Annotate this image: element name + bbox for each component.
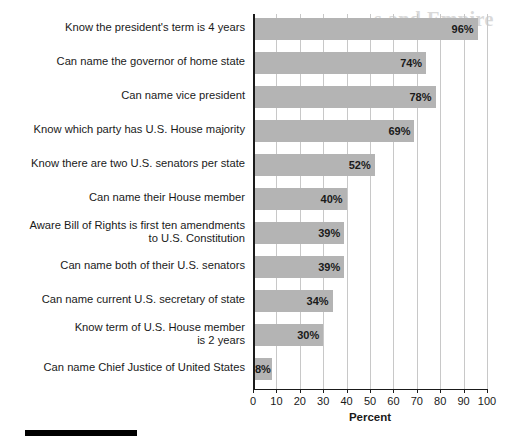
tick-mark-100 bbox=[487, 389, 488, 393]
horizontal-bar-chart: Know the president's term is 4 yearsCan … bbox=[0, 0, 508, 444]
bar-row: 74% bbox=[253, 52, 487, 74]
value-axis-zero-line bbox=[253, 14, 255, 389]
bar-value-label: 69% bbox=[384, 120, 410, 142]
category-label: Know the president's term is 4 years bbox=[0, 21, 245, 35]
tick-mark-50 bbox=[370, 389, 371, 393]
bar-value-label: 34% bbox=[303, 290, 329, 312]
tick-mark-30 bbox=[323, 389, 324, 393]
tick-mark-20 bbox=[300, 389, 301, 393]
bar-value-label: 39% bbox=[314, 256, 340, 278]
x-axis-title: Percent bbox=[253, 411, 487, 423]
category-axis-labels: Know the president's term is 4 yearsCan … bbox=[0, 14, 249, 389]
category-label: Can name the governor of home state bbox=[0, 55, 245, 69]
bar-row: 52% bbox=[253, 154, 487, 176]
bar-row: 39% bbox=[253, 256, 487, 278]
bar-value-label: 78% bbox=[406, 86, 432, 108]
gridline-100 bbox=[487, 14, 488, 389]
bar-row: 78% bbox=[253, 86, 487, 108]
tick-label-70: 70 bbox=[404, 395, 430, 407]
tick-label-20: 20 bbox=[287, 395, 313, 407]
category-label: Can name their House member bbox=[0, 191, 245, 205]
category-label: Aware Bill of Rights is first ten amendm… bbox=[0, 219, 245, 246]
bar-row: 30% bbox=[253, 324, 487, 346]
bar-row: 8% bbox=[253, 358, 487, 380]
category-label: Know there are two U.S. senators per sta… bbox=[0, 157, 245, 171]
bar-value-label: 74% bbox=[396, 52, 422, 74]
bar-row: 39% bbox=[253, 222, 487, 244]
tick-mark-60 bbox=[393, 389, 394, 393]
category-label: Can name both of their U.S. senators bbox=[0, 259, 245, 273]
tick-mark-10 bbox=[276, 389, 277, 393]
tick-label-80: 80 bbox=[427, 395, 453, 407]
bar-row: 96% bbox=[253, 18, 487, 40]
bar-value-label: 39% bbox=[314, 222, 340, 244]
bar-value-label: 30% bbox=[293, 324, 319, 346]
tick-mark-80 bbox=[440, 389, 441, 393]
tick-mark-90 bbox=[464, 389, 465, 393]
bar bbox=[253, 18, 478, 40]
tick-mark-70 bbox=[417, 389, 418, 393]
footer-rule bbox=[25, 430, 137, 436]
category-label: Know term of U.S. House member is 2 year… bbox=[0, 321, 245, 348]
bar-row: 34% bbox=[253, 290, 487, 312]
bar-value-label: 8% bbox=[255, 358, 271, 380]
bar-row: 40% bbox=[253, 188, 487, 210]
bar-value-label: 96% bbox=[448, 18, 474, 40]
tick-mark-40 bbox=[347, 389, 348, 393]
category-label: Can name current U.S. secretary of state bbox=[0, 293, 245, 307]
category-label: Can name vice president bbox=[0, 89, 245, 103]
tick-label-60: 60 bbox=[380, 395, 406, 407]
tick-label-40: 40 bbox=[334, 395, 360, 407]
tick-mark-0 bbox=[253, 389, 254, 393]
bar-row: 69% bbox=[253, 120, 487, 142]
tick-label-100: 100 bbox=[474, 395, 500, 407]
tick-label-90: 90 bbox=[451, 395, 477, 407]
plot-area: 96%74%78%69%52%40%39%39%34%30%8% bbox=[253, 14, 487, 389]
category-label: Can name Chief Justice of United States bbox=[0, 361, 245, 375]
category-label: Know which party has U.S. House majority bbox=[0, 123, 245, 137]
bar-value-label: 40% bbox=[317, 188, 343, 210]
tick-label-30: 30 bbox=[310, 395, 336, 407]
bar-value-label: 52% bbox=[345, 154, 371, 176]
tick-label-10: 10 bbox=[263, 395, 289, 407]
tick-label-0: 0 bbox=[240, 395, 266, 407]
tick-label-50: 50 bbox=[357, 395, 383, 407]
